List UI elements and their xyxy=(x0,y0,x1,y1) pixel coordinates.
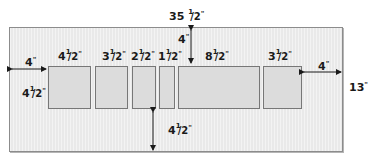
right-margin-label: 4" xyxy=(318,61,329,72)
panel-3-width-fraction: 1/2 xyxy=(139,52,152,62)
panel-2-width-label: 31/2" xyxy=(102,51,126,62)
overall-height-label: 13" xyxy=(349,82,368,93)
inch-mark: " xyxy=(178,50,182,58)
panel-5-width-label: 81/2" xyxy=(205,51,229,62)
inch-mark: " xyxy=(326,60,330,68)
left-margin-value: 4 xyxy=(25,56,33,69)
panel-4-width-label: 11/2" xyxy=(158,51,182,62)
inch-mark: " xyxy=(33,56,37,64)
panel-6-width-label: 31/2" xyxy=(268,51,292,62)
bottom-margin-label: 41/2" xyxy=(168,125,192,136)
inch-mark: " xyxy=(186,33,190,41)
overall-width-fraction: 1/2 xyxy=(188,12,201,22)
right-margin-value: 4 xyxy=(318,60,326,73)
panel-6-width-whole: 3 xyxy=(268,50,276,63)
inch-mark: " xyxy=(225,50,229,58)
inch-mark: " xyxy=(151,50,155,58)
panel-1-width-label: 41/2" xyxy=(58,51,82,62)
panel-3-width-whole: 2 xyxy=(131,50,139,63)
panel-height-fraction: 1/2 xyxy=(30,89,43,99)
inch-mark: " xyxy=(42,87,46,95)
overall-height-value: 13 xyxy=(349,81,364,94)
inch-mark: " xyxy=(288,50,292,58)
inch-mark: " xyxy=(122,50,126,58)
panel-5-width-fraction: 1/2 xyxy=(213,52,226,62)
panel-5-width-whole: 8 xyxy=(205,50,213,63)
overall-width-whole: 35 xyxy=(169,10,184,23)
inch-mark: " xyxy=(364,81,368,89)
inch-mark: " xyxy=(78,50,82,58)
bottom-margin-whole: 4 xyxy=(168,124,176,137)
inch-mark: " xyxy=(188,124,192,132)
panel-height-whole: 4 xyxy=(22,87,30,100)
panel-6-width-fraction: 1/2 xyxy=(276,52,289,62)
left-margin-label: 4" xyxy=(25,57,36,68)
bottom-margin-fraction: 1/2 xyxy=(176,126,189,136)
panel-3-width-label: 21/2" xyxy=(131,51,155,62)
inch-mark: " xyxy=(201,10,205,18)
panel-1-width-fraction: 1/2 xyxy=(66,52,79,62)
panel-4-width-fraction: 1/2 xyxy=(166,52,179,62)
panel-2-width-whole: 3 xyxy=(102,50,110,63)
dimension-arrows xyxy=(0,0,372,162)
panel-height-label: 41/2" xyxy=(22,88,46,99)
panel-4-width-whole: 1 xyxy=(158,50,166,63)
overall-width-label: 35 1/2" xyxy=(169,11,204,22)
panel-2-width-fraction: 1/2 xyxy=(110,52,123,62)
panel-1-width-whole: 4 xyxy=(58,50,66,63)
top-margin-label: 4" xyxy=(178,34,189,45)
top-margin-value: 4 xyxy=(178,33,186,46)
